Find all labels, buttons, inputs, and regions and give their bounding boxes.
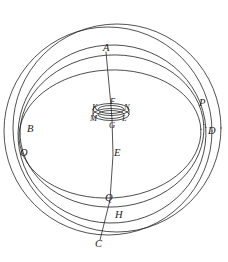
point-label-D: D: [208, 126, 216, 137]
geometry-figure: [0, 0, 228, 262]
equator-ellipse: [16, 65, 204, 202]
point-label-P: P: [199, 98, 205, 109]
point-label-M: M: [90, 114, 97, 123]
point-label-G: G: [109, 121, 115, 130]
point-label-O: O: [20, 148, 28, 159]
outer-circle-left: [4, 27, 212, 235]
point-label-F: F: [110, 97, 115, 106]
point-label-C: C: [95, 239, 102, 250]
point-label-Q: Q: [105, 193, 113, 204]
point-label-H: H: [115, 210, 123, 221]
point-label-A: A: [103, 43, 109, 54]
point-label-L: L: [122, 114, 127, 123]
point-label-N: N: [124, 103, 130, 112]
polar-axis-line: [100, 52, 113, 240]
point-label-K: K: [92, 103, 98, 112]
point-label-B: B: [27, 124, 33, 135]
polar-axis: [100, 52, 113, 240]
diagram-canvas: ABOCDPEQHKFNMLG: [0, 0, 228, 262]
point-label-E: E: [114, 148, 120, 159]
